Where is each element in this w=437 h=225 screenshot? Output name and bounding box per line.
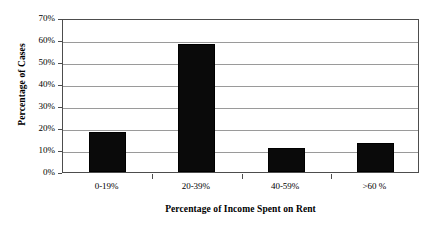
x-axis-category-label: 0-19%	[62, 181, 151, 191]
x-axis-tick-mark	[152, 174, 153, 179]
y-axis-tick-label: 20%	[22, 124, 55, 133]
gridline	[63, 130, 418, 131]
y-axis-tick-label: 40%	[22, 80, 55, 89]
y-axis-tick-label: 30%	[22, 102, 55, 111]
y-axis-tick-label: 10%	[22, 146, 55, 155]
y-axis-tick-mark	[58, 19, 62, 20]
bar	[268, 148, 305, 172]
y-axis-tick-label: 60%	[22, 36, 55, 45]
x-axis-tick-mark	[331, 174, 332, 179]
y-axis-tick-mark	[58, 41, 62, 42]
y-axis-tick-label: 50%	[22, 58, 55, 67]
y-axis-tick-mark	[58, 151, 62, 152]
y-axis-tick-label: 0%	[22, 168, 55, 177]
x-axis-category-label: 20-39%	[151, 181, 240, 191]
x-axis-title: Percentage of Income Spent on Rent	[62, 203, 419, 215]
gridline	[63, 86, 418, 87]
y-axis-tick-mark	[58, 107, 62, 108]
x-axis-category-label: 40-59%	[241, 181, 330, 191]
bar	[178, 44, 215, 172]
bar	[89, 132, 126, 172]
gridline	[63, 108, 418, 109]
y-axis-tick-mark	[58, 129, 62, 130]
y-axis-tick-mark	[58, 63, 62, 64]
gridline	[63, 42, 418, 43]
gridline	[63, 64, 418, 65]
plot-area	[62, 19, 419, 173]
x-axis-category-label: >60 %	[330, 181, 419, 191]
bar-chart-figure: Percentage of Cases 0%10%20%30%40%50%60%…	[0, 0, 437, 225]
bar	[357, 143, 394, 172]
y-axis-tick-mark	[58, 85, 62, 86]
y-axis-tick-mark	[58, 173, 62, 174]
x-axis-tick-mark	[242, 174, 243, 179]
y-axis-tick-label: 70%	[22, 14, 55, 23]
